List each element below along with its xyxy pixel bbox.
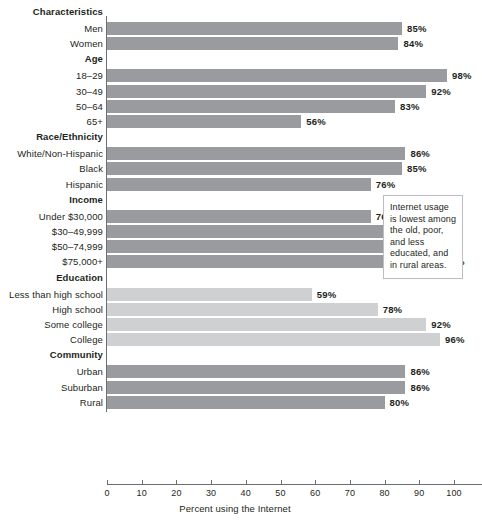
group-header-spacer xyxy=(107,51,470,66)
group-header-community: Community xyxy=(0,347,470,362)
group-label: Community xyxy=(0,349,107,360)
x-axis-tick xyxy=(419,480,420,484)
group-header-race-ethnicity: Race/Ethnicity xyxy=(0,129,470,144)
bar xyxy=(107,85,426,98)
bar-value-label: 76% xyxy=(376,177,396,192)
category-label: College xyxy=(0,334,107,345)
y-axis-line xyxy=(106,16,107,412)
bar-value-label: 92% xyxy=(431,84,451,99)
bar-row: Men85% xyxy=(0,21,470,36)
category-label: Rural xyxy=(0,397,107,408)
bar-track: 92% xyxy=(107,84,470,99)
bar-track: 98% xyxy=(107,68,470,83)
group-label: Education xyxy=(0,272,107,283)
x-axis-tick-label: 100 xyxy=(442,488,466,498)
x-axis-tick xyxy=(315,480,316,484)
x-axis-tick-label: 20 xyxy=(164,488,188,498)
bar-row: Some college92% xyxy=(0,317,470,332)
x-axis-tick-label: 10 xyxy=(130,488,154,498)
x-axis-tick-label: 80 xyxy=(373,488,397,498)
bar xyxy=(107,69,447,82)
category-label: $30–49,999 xyxy=(0,226,107,237)
bar-row: Rural80% xyxy=(0,395,470,410)
bar-track: 80% xyxy=(107,395,470,410)
bar xyxy=(107,365,405,378)
x-axis-tick-label: 0 xyxy=(95,488,119,498)
category-label: 18–29 xyxy=(0,70,107,81)
bar-row: Women84% xyxy=(0,36,470,51)
group-header-spacer xyxy=(107,129,470,144)
category-label: Hispanic xyxy=(0,179,107,190)
group-label: Characteristics xyxy=(0,6,107,17)
bar-row: Hispanic76% xyxy=(0,177,470,192)
bar-value-label: 86% xyxy=(410,380,430,395)
bar-track: 59% xyxy=(107,287,470,302)
x-axis-tick-label: 50 xyxy=(269,488,293,498)
category-label: $50–74,999 xyxy=(0,241,107,252)
bar-value-label: 80% xyxy=(390,395,410,410)
bar-value-label: 85% xyxy=(407,161,427,176)
bar xyxy=(107,318,426,331)
category-label: Women xyxy=(0,38,107,49)
group-header-spacer xyxy=(107,4,470,19)
bar-row: Black85% xyxy=(0,161,470,176)
x-axis-tick-label: 30 xyxy=(199,488,223,498)
bar-value-label: 86% xyxy=(410,364,430,379)
x-axis-tick-label: 70 xyxy=(338,488,362,498)
bar-row: College96% xyxy=(0,332,470,347)
category-label: Some college xyxy=(0,319,107,330)
group-label: Age xyxy=(0,53,107,64)
bar xyxy=(107,178,371,191)
bar-row: 30–4992% xyxy=(0,84,470,99)
category-label: $75,000+ xyxy=(0,256,107,267)
category-label: High school xyxy=(0,304,107,315)
bar xyxy=(107,22,402,35)
category-label: Under $30,000 xyxy=(0,211,107,222)
bar-track: 83% xyxy=(107,99,470,114)
x-axis-tick xyxy=(385,480,386,484)
category-label: Urban xyxy=(0,366,107,377)
bar-track: 84% xyxy=(107,36,470,51)
category-label: Men xyxy=(0,23,107,34)
category-label: Less than high school xyxy=(0,289,107,300)
group-label: Income xyxy=(0,194,107,205)
bar-value-label: 84% xyxy=(403,36,423,51)
bar-value-label: 96% xyxy=(445,332,465,347)
bar xyxy=(107,333,440,346)
bar xyxy=(107,100,395,113)
bar-track: 56% xyxy=(107,114,470,129)
bar-value-label: 59% xyxy=(317,287,337,302)
bar-row: 50–6483% xyxy=(0,99,470,114)
bar-track: 92% xyxy=(107,317,470,332)
bar-value-label: 83% xyxy=(400,99,420,114)
bar-row: Suburban86% xyxy=(0,380,470,395)
x-axis-tick xyxy=(246,480,247,484)
bar xyxy=(107,210,371,223)
group-header-characteristics: Characteristics xyxy=(0,4,470,19)
group-header-spacer xyxy=(107,347,470,362)
x-axis-tick xyxy=(350,480,351,484)
bar-track: 85% xyxy=(107,161,470,176)
bar-row: High school78% xyxy=(0,302,470,317)
x-axis-tick-label: 60 xyxy=(303,488,327,498)
bar xyxy=(107,225,412,238)
x-axis-tick-label: 90 xyxy=(407,488,431,498)
bar xyxy=(107,115,301,128)
bar-value-label: 56% xyxy=(306,114,326,129)
bar-track: 86% xyxy=(107,146,470,161)
x-axis-tick xyxy=(454,480,455,484)
bar-row: 65+56% xyxy=(0,114,470,129)
bar-row: White/Non-Hispanic86% xyxy=(0,146,470,161)
category-label: 65+ xyxy=(0,116,107,127)
bar-value-label: 86% xyxy=(410,146,430,161)
bar-track: 85% xyxy=(107,21,470,36)
x-axis-tick xyxy=(142,480,143,484)
x-axis-tick xyxy=(281,480,282,484)
x-axis-tick-label: 40 xyxy=(234,488,258,498)
bar-track: 78% xyxy=(107,302,470,317)
x-axis-tick xyxy=(107,480,108,484)
bar xyxy=(107,288,312,301)
x-axis-title: Percent using the Internet xyxy=(0,503,470,514)
group-header-age: Age xyxy=(0,51,470,66)
